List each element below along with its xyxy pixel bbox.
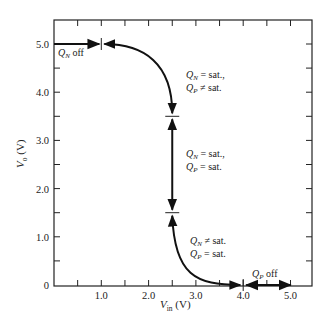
- annotation-qn-notsat-qp-sat: QN ≠ sat.: [190, 235, 226, 248]
- axis-ticks: [54, 20, 312, 286]
- plot-frame: [54, 20, 312, 286]
- y-tick-label: 1.0: [36, 232, 49, 243]
- annotation-qn-off: QN off: [58, 47, 85, 60]
- annotation-qn-notsat-qp-sat-line2: QP = sat.: [190, 248, 226, 261]
- x-tick-label: 4.0: [237, 290, 250, 301]
- annotation-qp-off: QP off: [252, 268, 278, 281]
- y-tick-label: 2.0: [36, 184, 49, 195]
- x-tick-label: 3.0: [189, 290, 202, 301]
- x-axis-title: Vin (V): [160, 298, 191, 313]
- annotation-both-sat: QN = sat.,: [186, 148, 225, 161]
- y-tick-label: 0: [44, 280, 49, 291]
- annotation-both-sat-line2: QP = sat.: [186, 161, 222, 174]
- transfer-curve: [54, 44, 291, 285]
- annotation-qn-sat-qp-notsat-line2: QP ≠ sat.: [186, 82, 222, 95]
- x-tick-label: 1.0: [95, 290, 108, 301]
- x-tick-label: 5.0: [284, 290, 297, 301]
- x-tick-label: 2.0: [142, 290, 155, 301]
- y-tick-label: 4.0: [36, 87, 49, 98]
- y-axis-title: Vo (V): [14, 139, 29, 168]
- annotation-qn-sat-qp-notsat: QN = sat.,: [186, 69, 225, 82]
- vtc-chart: 1.02.03.04.05.001.02.03.04.05.0 QN off Q…: [0, 0, 328, 328]
- y-tick-label: 3.0: [36, 135, 49, 146]
- y-tick-label: 5.0: [36, 39, 49, 50]
